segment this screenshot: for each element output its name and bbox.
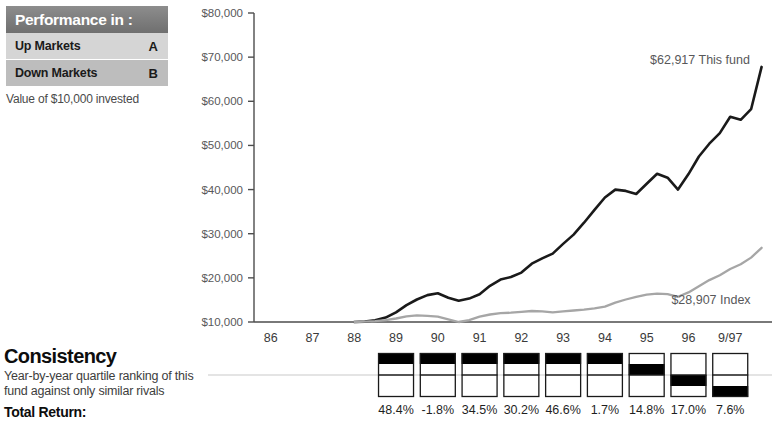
y-axis-tick-label: $80,000 [201,7,243,19]
quartile-canvas: 48.4%-1.8%34.5%30.2%46.6%1.7%14.8%17.0%7… [0,345,776,423]
x-axis-tick-label: 92 [514,331,528,345]
quartile-fill-band [670,375,706,386]
x-axis-tick-label: 96 [681,331,695,345]
quartile-box-94 [587,353,623,397]
quartile-ranking-strip: 48.4%-1.8%34.5%30.2%46.6%1.7%14.8%17.0%7… [0,345,776,423]
y-axis-tick-label: $40,000 [201,184,243,196]
quartile-box-89 [378,353,414,397]
quartile-fill-band [712,386,748,397]
series-line-index [354,248,761,322]
down-markets-grade: B [144,66,158,81]
chart-series-lines [354,67,761,322]
y-axis-tick-label: $50,000 [201,139,243,151]
quartile-return-9/97: 7.6% [716,403,745,417]
up-markets-label: Up Markets [15,39,144,53]
quartile-fill-band [629,364,665,375]
quartile-return-89: 48.4% [378,403,413,417]
quartile-return-93: 46.6% [545,403,580,417]
y-axis-tick-label: $70,000 [201,51,243,63]
performance-row-down-markets: Down Markets B [6,60,168,87]
x-axis: 86878889909192939495969/97 [254,322,772,345]
x-axis-tick-label: 89 [389,331,403,345]
quartile-box-90 [420,353,456,397]
quartile-box-9/97 [712,353,748,397]
x-axis-tick-label: 9/97 [718,331,742,345]
series-annotation-1: $62,917 This fund [650,53,750,67]
quartile-box-91 [462,353,498,397]
quartile-fill-band [462,353,498,364]
quartile-return-labels: 48.4%-1.8%34.5%30.2%46.6%1.7%14.8%17.0%7… [378,403,744,417]
series-line-this-fund [354,67,761,322]
quartile-return-91: 34.5% [462,403,497,417]
performance-summary-box: Performance in : Up Markets A Down Marke… [6,6,168,106]
x-axis-tick-label: 88 [347,331,361,345]
quartile-box-92 [503,353,539,397]
y-axis-tick-label: $60,000 [201,95,243,107]
performance-box-caption: Value of $10,000 invested [6,92,168,106]
up-markets-grade: A [144,39,158,54]
quartile-box-93 [545,353,581,397]
performance-box-header: Performance in : [6,6,168,33]
quartile-return-94: 1.7% [591,403,620,417]
x-axis-tick-label: 93 [556,331,570,345]
x-axis-tick-label: 90 [431,331,445,345]
y-axis-tick-label: $20,000 [201,272,243,284]
x-axis-tick-label: 87 [306,331,320,345]
quartile-box-95 [629,353,665,397]
quartile-fill-band [587,353,623,364]
quartile-fill-band [378,353,414,364]
chart-annotations: $62,917 This fund$28,907 Index [650,53,751,307]
series-annotation-2: $28,907 Index [671,293,751,307]
quartile-fill-band [503,353,539,364]
performance-row-up-markets: Up Markets A [6,33,168,60]
performance-box-title: Performance in : [15,11,133,29]
quartile-return-96: 17.0% [671,403,706,417]
y-axis-tick-label: $30,000 [201,228,243,240]
x-axis-tick-label: 95 [640,331,654,345]
quartile-boxes [378,353,748,397]
y-axis: $10,000$20,000$30,000$40,000$50,000$60,0… [201,7,254,328]
quartile-fill-band [545,353,581,364]
y-axis-tick-label: $10,000 [201,316,243,328]
x-axis-tick-label: 91 [473,331,487,345]
quartile-return-92: 30.2% [504,403,539,417]
quartile-return-95: 14.8% [629,403,664,417]
quartile-box-96 [670,353,706,397]
x-axis-tick-label: 86 [264,331,278,345]
quartile-fill-band [420,353,456,364]
x-axis-tick-label: 94 [598,331,612,345]
quartile-return-90: -1.8% [421,403,454,417]
down-markets-label: Down Markets [15,66,144,80]
